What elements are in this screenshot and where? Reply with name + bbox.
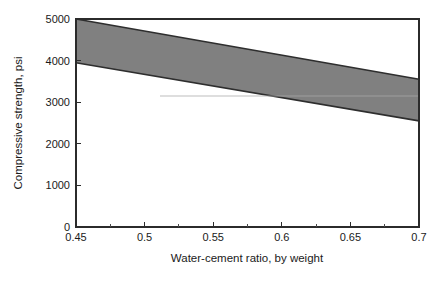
x-tick-label-3: 0.6	[274, 231, 289, 243]
y-tick-label-1: 1000	[46, 179, 70, 191]
x-tick-label-4: 0.65	[340, 231, 361, 243]
x-tick-label-1: 0.5	[137, 231, 152, 243]
y-tick-label-4: 4000	[46, 55, 70, 67]
x-tick-label-2: 0.55	[202, 231, 223, 243]
y-tick-label-5: 5000	[46, 13, 70, 25]
x-axis-title: Water-cement ratio, by weight	[171, 252, 324, 264]
y-tick-label-3: 3000	[46, 96, 70, 108]
chart-figure: 0.45 0.5 0.55 0.6 0.65 0.7 0 1000 2000 3…	[0, 0, 445, 284]
y-tick-label-2: 2000	[46, 138, 70, 150]
x-tick-label-5: 0.7	[411, 231, 426, 243]
y-axis-title: Compressive strength, psi	[12, 57, 24, 190]
y-tick-label-0: 0	[64, 221, 70, 233]
compressive-strength-vs-water-cement-ratio-chart: 0.45 0.5 0.55 0.6 0.65 0.7 0 1000 2000 3…	[0, 0, 445, 284]
